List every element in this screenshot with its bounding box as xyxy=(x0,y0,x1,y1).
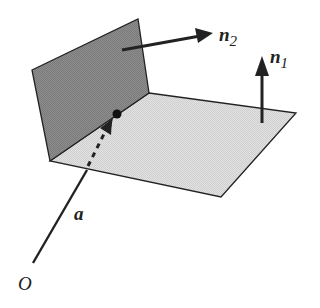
label-n1: n1 xyxy=(270,46,288,71)
intersection-point xyxy=(113,110,122,119)
label-a: a xyxy=(74,203,84,224)
label-origin: O xyxy=(18,273,32,294)
planes-diagram: n2 n1 a O xyxy=(0,0,320,308)
label-n2: n2 xyxy=(219,24,238,49)
